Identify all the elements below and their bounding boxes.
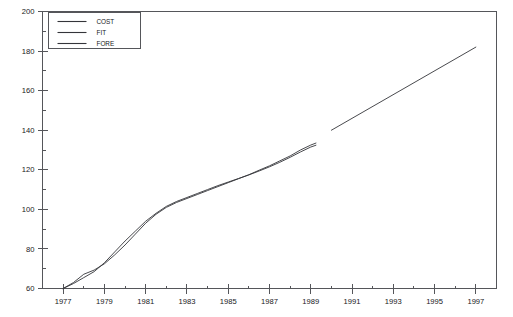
x-tick-label: 1977 <box>55 297 72 306</box>
chart-tick-labels: 6080100120140160180200197719791981198319… <box>22 7 484 305</box>
x-tick-label: 1991 <box>344 297 361 306</box>
line-chart: 6080100120140160180200197719791981198319… <box>0 0 513 317</box>
legend-label-cost: COST <box>97 18 115 25</box>
plot-frame <box>43 12 497 289</box>
chart-ticks <box>38 12 476 294</box>
x-tick-label: 1993 <box>385 297 402 306</box>
x-tick-label: 1997 <box>467 297 484 306</box>
x-tick-label: 1989 <box>302 297 319 306</box>
chart-series <box>63 47 476 288</box>
y-tick-label: 80 <box>26 245 34 254</box>
x-tick-label: 1981 <box>137 297 154 306</box>
y-tick-label: 200 <box>22 7 35 16</box>
series-line-fit <box>63 145 316 288</box>
series-line-cost <box>63 143 316 288</box>
chart-container: 6080100120140160180200197719791981198319… <box>0 0 513 317</box>
x-tick-label: 1987 <box>261 297 278 306</box>
x-tick-label: 1995 <box>426 297 443 306</box>
y-tick-label: 100 <box>22 205 35 214</box>
y-tick-label: 140 <box>22 126 35 135</box>
y-tick-label: 180 <box>22 47 35 56</box>
y-tick-label: 160 <box>22 86 35 95</box>
chart-axes <box>43 12 497 289</box>
y-tick-label: 60 <box>26 284 34 293</box>
x-tick-label: 1979 <box>96 297 113 306</box>
x-tick-label: 1983 <box>179 297 196 306</box>
x-tick-label: 1985 <box>220 297 237 306</box>
y-tick-label: 120 <box>22 165 35 174</box>
chart-legend: COSTFITFORE <box>49 13 141 49</box>
series-line-fore <box>331 47 475 130</box>
legend-label-fit: FIT <box>97 29 107 36</box>
legend-label-fore: FORE <box>97 40 115 47</box>
